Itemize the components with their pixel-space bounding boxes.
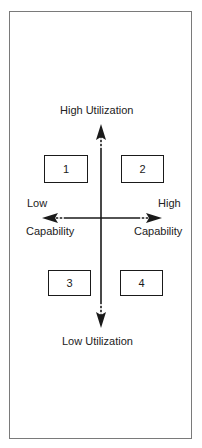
label-high-capability: Capability — [134, 225, 182, 237]
quadrant-box-4: 4 — [120, 270, 163, 296]
label-high-utilization: High Utilization — [60, 104, 133, 116]
label-low: Low — [27, 197, 47, 209]
axes — [0, 0, 202, 448]
quadrant-box-3: 3 — [48, 270, 91, 296]
label-high: High — [158, 197, 181, 209]
horizontal-axis — [42, 213, 162, 223]
quadrant-box-2: 2 — [121, 155, 164, 183]
vertical-axis — [96, 124, 106, 328]
label-low-capability: Capability — [26, 225, 74, 237]
label-low-utilization: Low Utilization — [62, 335, 133, 347]
quadrant-box-1: 1 — [44, 155, 88, 183]
